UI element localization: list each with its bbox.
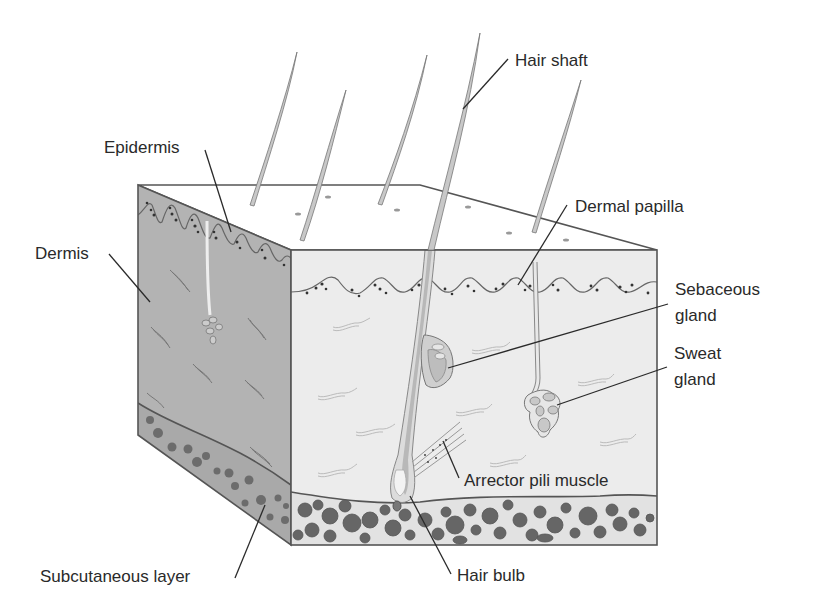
label-sebaceous-gland-line1: Sebaceous: [675, 280, 760, 299]
front-face-cross-section: [291, 250, 657, 545]
label-sebaceous-gland-line2: gland: [675, 306, 717, 325]
label-dermis-text: Dermis: [35, 244, 89, 263]
label-sweat-gland-line2: gland: [674, 370, 716, 389]
skin-cross-section-diagram: Epidermis Dermis Subcutaneous layer Hair…: [0, 0, 818, 611]
label-dermal-papilla-text: Dermal papilla: [575, 197, 684, 216]
label-subcutaneous-layer-text: Subcutaneous layer: [40, 567, 191, 586]
label-hair-bulb-text: Hair bulb: [457, 566, 525, 585]
label-arrector-pili-muscle-text: Arrector pili muscle: [464, 471, 609, 490]
label-dermis: Dermis: [35, 244, 150, 302]
label-hair-shaft-text: Hair shaft: [515, 51, 588, 70]
label-hair-shaft: Hair shaft: [463, 51, 588, 109]
label-epidermis-text: Epidermis: [104, 138, 180, 157]
label-subcutaneous-layer: Subcutaneous layer: [40, 505, 265, 586]
label-sweat-gland-line1: Sweat: [674, 344, 722, 363]
dermis-left-face: [138, 185, 291, 545]
